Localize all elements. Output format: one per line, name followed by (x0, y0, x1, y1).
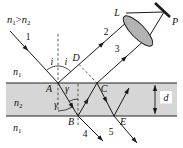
diagram-canvas: n1>n2 n1 n2 n1 1 2 3 4 5 A B C D E i i γ… (0, 0, 183, 148)
focus-point-label: P (171, 16, 178, 27)
converging-ray-upper (126, 12, 164, 13)
ray-2-label: 2 (104, 27, 109, 37)
point-d-label: D (71, 52, 80, 63)
point-e-label: E (119, 116, 126, 127)
medium-n1-bottom-label: n1 (13, 122, 22, 135)
point-c-label: C (101, 83, 108, 94)
ray-1-label: 1 (26, 32, 31, 42)
medium-n1-top-label: n1 (13, 66, 22, 79)
angle-i-left-label: i (51, 56, 54, 67)
point-b-label: B (68, 116, 74, 127)
lens-label: L (113, 7, 120, 18)
point-a-label: A (45, 83, 53, 94)
refraction-interference-diagram: n1>n2 n1 n2 n1 1 2 3 4 5 A B C D E i i γ… (0, 0, 183, 148)
ray-3-label: 3 (115, 44, 120, 54)
exit-ray-3 (97, 38, 147, 83)
ray-4-label: 4 (83, 129, 88, 139)
condition-label: n1>n2 (7, 14, 31, 27)
lens (119, 12, 157, 50)
angle-i-right-label: i (65, 56, 68, 67)
ray-5-label: 5 (109, 127, 114, 137)
glass-slab (6, 83, 177, 116)
wavefront-dc-dashed (79, 64, 97, 83)
